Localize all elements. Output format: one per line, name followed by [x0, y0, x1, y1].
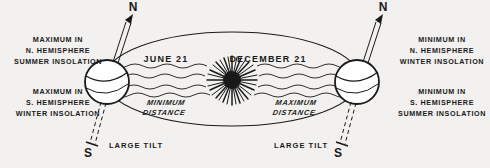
distance-label-minimum: MINIMUM DISTANCE — [128, 98, 202, 118]
annotation-right-bottom-line3: SUMMER INSOLATION — [392, 108, 490, 119]
pole-label-north-left: N — [126, 2, 140, 13]
annotation-left-top-line2: N. HEMISPHERE — [8, 45, 108, 56]
annotation-left-bottom-line3: WINTER INSOLATION — [8, 108, 108, 119]
annotation-right-top-line1: MINIMUM IN — [392, 34, 490, 45]
annotation-right-top-line2: N. HEMISPHERE — [392, 45, 490, 56]
pole-label-north-right: N — [376, 2, 390, 13]
annotation-right-bottom-line2: S. HEMISPHERE — [392, 97, 490, 108]
distance-label-maximum-line2: DISTANCE — [258, 108, 330, 118]
annotation-left-bottom-line2: S. HEMISPHERE — [8, 97, 108, 108]
annotation-right-top-line3: WINTER INSOLATION — [392, 56, 490, 67]
annotation-right-bottom: MINIMUM IN S. HEMISPHERE SUMMER INSOLATI… — [392, 86, 490, 119]
annotation-left-top-line3: SUMMER INSOLATION — [8, 56, 108, 67]
tilt-label-left: LARGE TILT — [103, 140, 169, 151]
distance-label-minimum-line1: MINIMUM — [130, 98, 202, 108]
annotation-left-top-line1: MAXIMUM IN — [8, 34, 108, 45]
annotation-left-bottom: MAXIMUM IN S. HEMISPHERE WINTER INSOLATI… — [8, 86, 108, 119]
season-label-june: JUNE 21 — [136, 54, 196, 65]
annotation-left-bottom-line1: MAXIMUM IN — [8, 86, 108, 97]
season-label-december: DECEMBER 21 — [228, 54, 308, 65]
pole-label-south-left: S — [81, 148, 95, 159]
tilt-label-right: LARGE TILT — [268, 140, 334, 151]
annotation-right-top: MINIMUM IN N. HEMISPHERE WINTER INSOLATI… — [392, 34, 490, 67]
earth-sphere-icon — [335, 60, 379, 104]
distance-label-maximum-line1: MAXIMUM — [260, 98, 332, 108]
annotation-right-bottom-line1: MINIMUM IN — [392, 86, 490, 97]
annotation-left-top: MAXIMUM IN N. HEMISPHERE SUMMER INSOLATI… — [8, 34, 108, 67]
distance-label-minimum-line2: DISTANCE — [128, 108, 200, 118]
distance-label-maximum: MAXIMUM DISTANCE — [258, 98, 332, 118]
